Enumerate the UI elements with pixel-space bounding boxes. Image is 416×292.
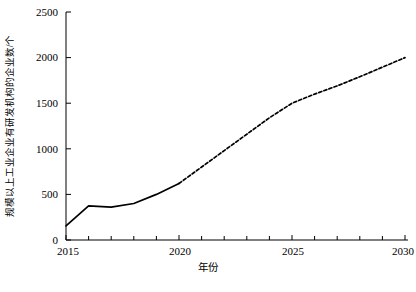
x-axis-tick-labels: 2015 2020 2025 2030 <box>0 0 416 292</box>
x-axis-title: 年份 <box>0 261 416 274</box>
x-tick-label: 2025 <box>268 245 318 257</box>
x-tick-label: 2030 <box>378 245 416 257</box>
x-tick-label: 2020 <box>155 245 205 257</box>
x-tick-label: 2015 <box>43 245 93 257</box>
chart-figure: 规模以上工业企业有研发机构的企业数/个 2500 2000 1500 1000 … <box>0 0 416 292</box>
